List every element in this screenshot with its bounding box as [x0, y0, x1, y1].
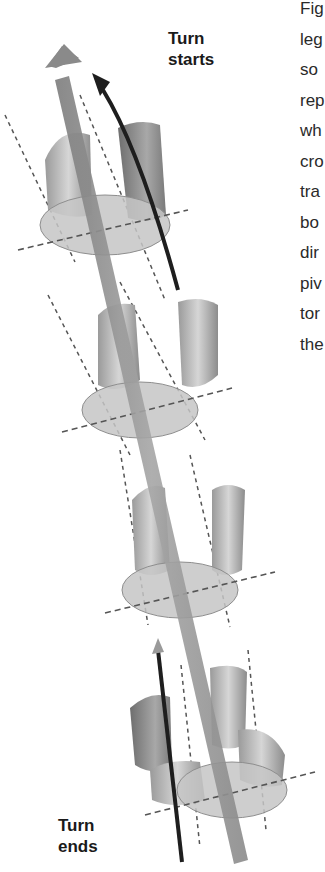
caption-fragment: wh [300, 116, 325, 147]
foot-pose-3 [105, 450, 275, 627]
caption-fragment: the [300, 330, 325, 361]
caption-fragment: piv [300, 269, 325, 300]
turn-starts-label: Turn starts [168, 28, 214, 70]
turn-starts-line-2: starts [168, 49, 214, 70]
turn-ends-line-2: ends [58, 836, 98, 857]
caption-fragment: bo [300, 208, 325, 239]
caption-text-fragments: Fig leg so rep wh cro tra bo dir piv tor… [300, 0, 325, 360]
caption-fragment: so [300, 55, 325, 86]
caption-fragment: Fig [300, 0, 325, 25]
caption-fragment: dir [300, 238, 325, 269]
turn-starts-line-1: Turn [168, 28, 214, 49]
turn-ends-line-1: Turn [58, 815, 98, 836]
caption-fragment: cro [300, 147, 325, 178]
caption-fragment: leg [300, 25, 325, 56]
caption-fragment: tra [300, 177, 325, 208]
turn-ends-label: Turn ends [58, 815, 98, 857]
caption-fragment: tor [300, 299, 325, 330]
caption-fragment: rep [300, 86, 325, 117]
